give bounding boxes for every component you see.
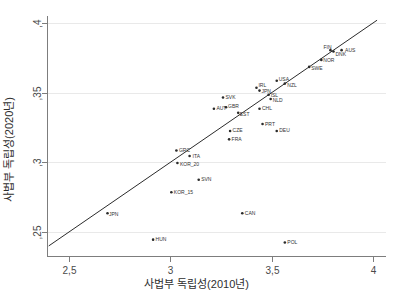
data-point-marker bbox=[332, 50, 335, 53]
x-axis-ticks: 2,533,54 bbox=[63, 257, 377, 276]
data-point-marker bbox=[255, 86, 258, 89]
data-point-label: POL bbox=[287, 239, 297, 245]
data-point: FIN bbox=[323, 44, 331, 51]
y-tick-label: ,35 bbox=[32, 86, 43, 100]
data-point: NLD bbox=[269, 97, 283, 103]
data-point-label: DNK bbox=[335, 51, 346, 57]
data-point-marker bbox=[258, 89, 261, 92]
identity-reference-line bbox=[49, 20, 377, 246]
data-point-marker bbox=[228, 138, 231, 141]
data-point-marker bbox=[152, 238, 155, 241]
data-point-marker bbox=[213, 107, 216, 110]
data-point-marker bbox=[229, 130, 232, 133]
data-point-marker bbox=[284, 82, 287, 85]
data-point-label: SWE bbox=[311, 65, 323, 71]
data-point-label: CAN bbox=[245, 210, 256, 216]
data-point: CHL bbox=[258, 105, 272, 111]
plot-canvas: 2,533,54 ,25,3,35,4 AUSDNKFINNORSWEUSANZ… bbox=[0, 0, 393, 299]
data-point-label: KOR_20 bbox=[180, 161, 199, 167]
data-point-marker bbox=[269, 98, 272, 101]
data-point: JPN bbox=[106, 211, 119, 217]
y-axis-title: 사법부 독립성(2020년) bbox=[0, 0, 14, 299]
data-point-label: NZL bbox=[287, 82, 297, 88]
y-tick-label: ,3 bbox=[32, 158, 43, 167]
data-point-marker bbox=[284, 241, 287, 244]
data-point-marker bbox=[222, 96, 225, 99]
data-point-marker bbox=[188, 155, 191, 158]
y-axis-ticks: ,25,3,35,4 bbox=[32, 19, 47, 240]
y-tick-label: ,4 bbox=[32, 19, 43, 28]
data-point: KOR_15 bbox=[170, 189, 193, 195]
data-point-label: HUN bbox=[156, 236, 167, 242]
data-point-label: AUS bbox=[345, 47, 356, 53]
data-point: HUN bbox=[152, 236, 167, 242]
data-point-label: JPN bbox=[109, 211, 119, 217]
data-point: SVN bbox=[197, 176, 211, 182]
data-point: KOR_20 bbox=[176, 161, 199, 167]
data-point: AUT bbox=[213, 105, 227, 111]
data-point-marker bbox=[267, 93, 270, 96]
data-point-label: GBR bbox=[228, 103, 239, 109]
data-point: FRA bbox=[228, 136, 242, 142]
data-point: EST bbox=[237, 111, 250, 117]
data-point-marker bbox=[241, 212, 244, 215]
data-point-marker bbox=[170, 191, 173, 194]
data-point: POL bbox=[284, 239, 298, 245]
data-point-label: CHL bbox=[262, 105, 272, 111]
data-point-label: NOR bbox=[323, 57, 335, 63]
data-point-label: GRC bbox=[179, 147, 191, 153]
data-point-label: ITA bbox=[193, 153, 201, 159]
x-axis-title: 사법부 독립성(2010년) bbox=[0, 275, 393, 291]
data-point-label: SVK bbox=[226, 94, 237, 100]
data-point: GRC bbox=[175, 147, 190, 153]
data-point-label: PRT bbox=[265, 121, 275, 127]
data-point: GBR bbox=[225, 103, 240, 109]
data-point: CAN bbox=[241, 210, 256, 216]
data-point: CZE bbox=[229, 127, 243, 133]
data-point: ITA bbox=[188, 153, 200, 159]
data-point-marker bbox=[261, 123, 264, 126]
data-point-label: FIN bbox=[323, 44, 331, 50]
data-point-label: CZE bbox=[233, 127, 244, 133]
data-point-marker bbox=[175, 149, 178, 152]
data-point: PRT bbox=[261, 121, 275, 127]
data-point-marker bbox=[197, 178, 200, 181]
data-point-label: AUT bbox=[216, 105, 226, 111]
data-point-marker bbox=[320, 59, 323, 62]
data-point-label: DEU bbox=[279, 127, 290, 133]
data-point-marker bbox=[275, 80, 278, 83]
data-point-marker bbox=[275, 130, 278, 133]
data-point-label: NLD bbox=[273, 97, 283, 103]
data-point-label: KOR_15 bbox=[174, 189, 193, 195]
data-point: SVK bbox=[222, 94, 236, 100]
data-point-marker bbox=[225, 106, 228, 109]
y-tick-label: ,25 bbox=[32, 225, 43, 239]
data-point-label: FRA bbox=[232, 136, 243, 142]
data-point: DEU bbox=[275, 127, 290, 133]
data-points-layer: AUSDNKFINNORSWEUSANZLIRLJPNISLNLDSVKAUTG… bbox=[106, 44, 356, 245]
scatter-plot-figure: 2,533,54 ,25,3,35,4 AUSDNKFINNORSWEUSANZ… bbox=[0, 0, 393, 299]
data-point-marker bbox=[308, 66, 311, 69]
data-point-label: SVN bbox=[201, 176, 212, 182]
data-point-marker bbox=[258, 107, 261, 110]
data-point-marker bbox=[176, 162, 179, 165]
data-point-label: EST bbox=[240, 111, 250, 117]
reference-line bbox=[49, 20, 377, 246]
